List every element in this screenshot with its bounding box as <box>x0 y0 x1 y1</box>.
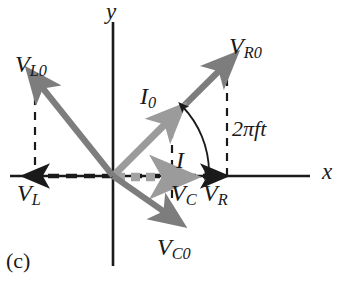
angle-label-2pift: 2πft <box>232 118 266 140</box>
panel-label: (c) <box>6 250 30 272</box>
vector-label-VR0: VR0 <box>229 34 262 61</box>
vector-label-VR: VR <box>203 181 228 208</box>
axis-label-y: y <box>106 0 116 23</box>
vector-label-VC0: VC0 <box>157 235 191 262</box>
axis-label-x: x <box>322 160 332 183</box>
vector-label-I0: I0 <box>140 84 156 111</box>
angle-arc-group <box>182 106 212 180</box>
vector-I0 <box>113 122 167 176</box>
vector-VL0 <box>41 86 113 176</box>
figure-panel: x y VR0 I0 VL0 VC0 VR VL I VC 2πft (c) <box>0 0 349 285</box>
vector-label-VL0: VL0 <box>15 52 47 79</box>
vector-label-I: I <box>176 148 184 175</box>
projection-lines-group <box>35 63 227 220</box>
vector-label-VC: VC <box>171 181 197 208</box>
vector-VC0 <box>113 176 166 213</box>
axis-group <box>10 22 310 266</box>
angle-arc-2pift <box>182 106 209 172</box>
vector-label-VL: VL <box>17 181 41 208</box>
